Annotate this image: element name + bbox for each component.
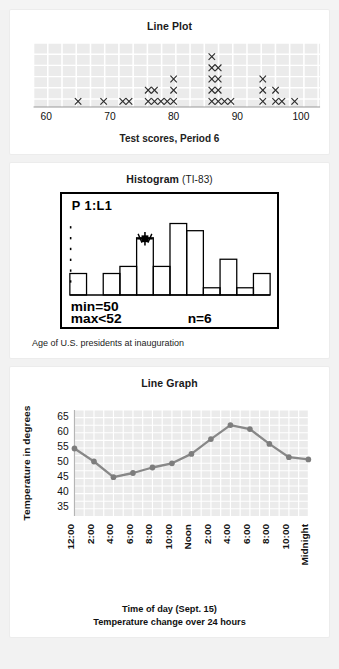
histogram-bar xyxy=(153,266,170,295)
histogram-caption: Age of U.S. presidents at inauguration xyxy=(16,338,323,348)
line-graph-svg: 35404550556065Temperature in degrees12:0… xyxy=(16,396,323,602)
histogram-bar xyxy=(70,274,87,295)
y-tick-label: 50 xyxy=(57,456,69,467)
y-tick-label: 65 xyxy=(57,411,69,422)
ti83-screen-wrap: P 1:L1min=50max<52n=6 xyxy=(16,192,323,329)
x-tick-label: 8:00 xyxy=(261,523,272,544)
data-point xyxy=(189,451,195,457)
data-point xyxy=(150,465,156,471)
y-axis-tick xyxy=(70,237,72,239)
line-graph-title: Line Graph xyxy=(16,377,323,389)
y-axis-tick xyxy=(70,248,72,250)
line-plot-caption: Test scores, Period 6 xyxy=(16,133,323,144)
x-tick-label: 10:00 xyxy=(163,523,174,549)
y-axis-tick xyxy=(70,226,72,228)
histogram-title-sub: (TI-83) xyxy=(182,174,213,185)
x-tick-label: 4:00 xyxy=(105,523,116,544)
x-tick-label: Noon xyxy=(183,524,194,550)
histogram-svg: P 1:L1min=50max<52n=6 xyxy=(62,194,277,327)
histogram-bar xyxy=(120,266,137,295)
x-tick-label: 70 xyxy=(104,111,116,122)
y-tick-label: 45 xyxy=(57,471,69,482)
x-tick-label: 10:00 xyxy=(280,523,291,549)
x-tick-label: 100 xyxy=(292,111,309,122)
data-point xyxy=(72,446,78,452)
x-tick-label: 60 xyxy=(41,111,53,122)
data-point xyxy=(130,470,136,476)
y-tick-label: 40 xyxy=(57,486,69,497)
line-graph-xlabel: Time of day (Sept. 15) xyxy=(16,604,323,614)
line-plot-title: Line Plot xyxy=(16,20,323,32)
x-tick-label: 6:00 xyxy=(124,523,135,544)
line-graph-chart: 35404550556065Temperature in degrees12:0… xyxy=(16,396,323,602)
histogram-bar xyxy=(170,224,187,295)
ti83-n-readout: n=6 xyxy=(188,311,212,326)
histogram-bar xyxy=(187,231,204,295)
histogram-bar xyxy=(203,288,220,295)
data-point xyxy=(228,422,234,428)
panel-line-plot: Line Plot 60708090100 Test scores, Perio… xyxy=(10,10,329,154)
data-point xyxy=(169,460,175,466)
x-tick-label: 2:00 xyxy=(85,523,96,544)
x-tick-label: 90 xyxy=(232,111,244,122)
data-point xyxy=(267,441,273,447)
x-tick-label: 4:00 xyxy=(222,523,233,544)
histogram-title: Histogram (TI-83) xyxy=(16,173,323,185)
histogram-title-main: Histogram xyxy=(126,173,179,185)
ti83-screen: P 1:L1min=50max<52n=6 xyxy=(60,192,279,329)
data-point xyxy=(247,426,253,432)
ti83-max-readout: max<52 xyxy=(71,311,122,326)
page-root: Line Plot 60708090100 Test scores, Perio… xyxy=(0,10,339,669)
y-axis-tick xyxy=(70,259,72,261)
panel-line-graph: Line Graph 35404550556065Temperature in … xyxy=(10,367,329,637)
histogram-bar xyxy=(103,274,120,295)
panel-histogram: Histogram (TI-83) P 1:L1min=50max<52n=6 … xyxy=(10,163,329,358)
data-point xyxy=(286,454,292,460)
y-axis-title: Temperature in degrees xyxy=(21,405,32,520)
ti83-trace-cursor xyxy=(137,232,153,246)
histogram-bar xyxy=(253,274,270,295)
y-axis-tick xyxy=(70,269,72,271)
x-tick-label: 6:00 xyxy=(241,523,252,544)
histogram-bar xyxy=(220,259,237,295)
x-tick-label: 2:00 xyxy=(202,523,213,544)
y-tick-label: 35 xyxy=(57,501,69,512)
x-tick-label: 80 xyxy=(168,111,180,122)
histogram-bar xyxy=(237,288,254,295)
line-plot-svg: 60708090100 xyxy=(16,39,323,131)
ti83-plot-label: P 1:L1 xyxy=(72,199,112,213)
data-point xyxy=(111,474,117,480)
data-point xyxy=(91,459,97,465)
data-point xyxy=(306,457,312,463)
histogram-bar xyxy=(137,238,154,295)
x-tick-label: Midnight xyxy=(299,523,310,565)
x-tick-label: 12:00 xyxy=(66,523,77,549)
y-tick-label: 60 xyxy=(57,426,69,437)
line-plot-chart: 60708090100 xyxy=(16,39,323,131)
y-tick-label: 55 xyxy=(57,441,69,452)
x-tick-label: 8:00 xyxy=(144,523,155,544)
data-point xyxy=(208,436,214,442)
line-graph-caption: Temperature change over 24 hours xyxy=(16,617,323,627)
